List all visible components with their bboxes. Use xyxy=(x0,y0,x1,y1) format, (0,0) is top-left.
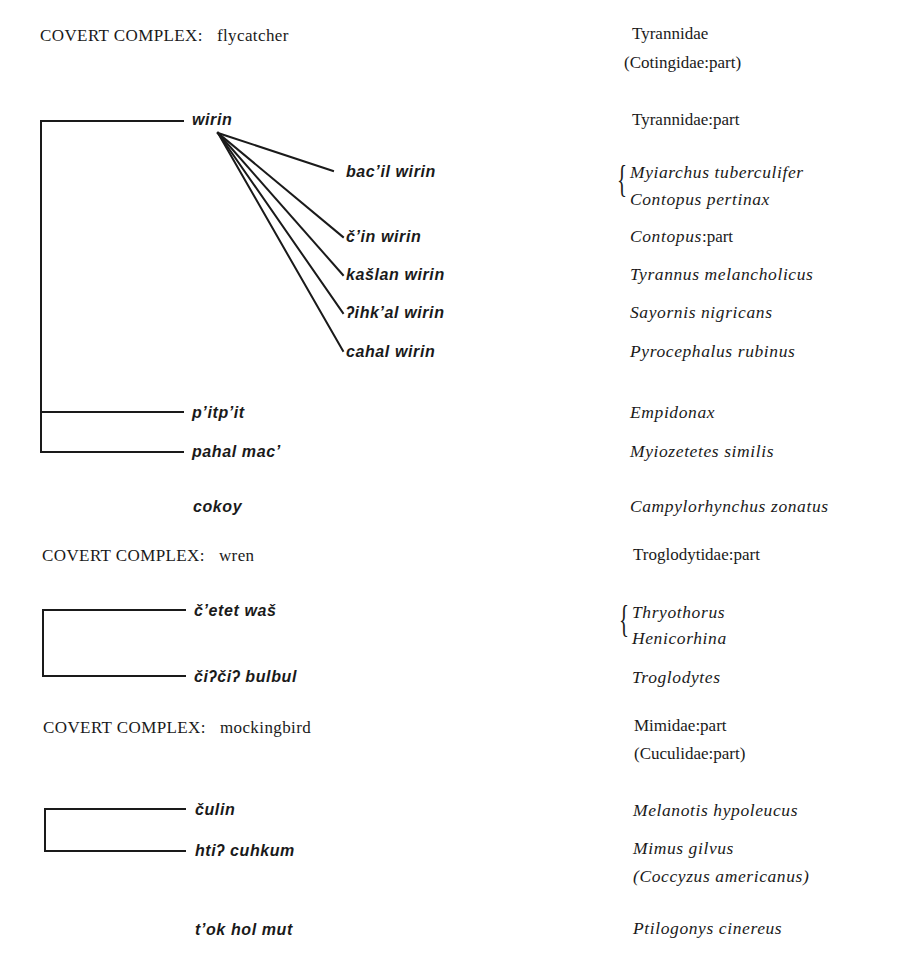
taxon-sayornis: Sayornis nigricans xyxy=(630,304,773,322)
taxon-tyrannus: Tyrannus melancholicus xyxy=(630,266,813,284)
taxon-empidonax: Empidonax xyxy=(630,404,715,422)
taxon-contopus-pertinax: Contopus pertinax xyxy=(630,191,770,209)
complex-name: mockingbird xyxy=(220,718,311,737)
taxon-wirin: Tyrannidae:part xyxy=(632,111,739,128)
term-cin-wirin: č’in wirin xyxy=(346,229,421,245)
mockingbird-bracket xyxy=(45,809,185,851)
term-wirin: wirin xyxy=(192,112,232,128)
flycatcher-bracket xyxy=(41,121,183,452)
complex-name: wren xyxy=(219,546,255,565)
complex-header-wren: COVERT COMPLEX:wren xyxy=(42,547,254,564)
taxon-campylorhynchus: Campylorhynchus zonatus xyxy=(630,498,829,516)
complex-header-mockingbird: COVERT COMPLEX:mockingbird xyxy=(43,719,311,736)
complex-label: COVERT COMPLEX: xyxy=(40,26,203,45)
brace-icon: { xyxy=(619,600,629,638)
term-cokoy: cokoy xyxy=(193,499,242,515)
fan-ihkal xyxy=(218,133,343,313)
taxon-troglodytes: Troglodytes xyxy=(632,669,721,687)
fan-cahal xyxy=(218,133,343,351)
complex-label: COVERT COMPLEX: xyxy=(43,718,206,737)
taxon-melanotis: Melanotis hypoleucus xyxy=(633,802,798,820)
family-tyrannidae: Tyrannidae xyxy=(632,25,708,42)
taxon-myiozetetes: Myiozetetes similis xyxy=(630,443,774,461)
term-cici-bulbul: čiʔčiʔ bulbul xyxy=(194,669,297,685)
term-pitpit: p’itp’it xyxy=(192,405,245,421)
complex-header-flycatcher: COVERT COMPLEX:flycatcher xyxy=(40,27,289,44)
term-cetet-was: č’etet waš xyxy=(194,603,276,619)
family-troglodytidae: Troglodytidae:part xyxy=(633,546,760,563)
taxon-mimus: Mimus gilvus xyxy=(633,840,734,858)
term-cahal-wirin: cahal wirin xyxy=(346,344,435,360)
brace-icon: { xyxy=(617,160,627,198)
term-hti-cuhkum: htiʔ cuhkum xyxy=(195,843,295,859)
taxon-ptilogonys: Ptilogonys cinereus xyxy=(633,920,782,938)
term-pahal-mac: pahal mac’ xyxy=(192,444,281,460)
taxon-pyrocephalus: Pyrocephalus rubinus xyxy=(630,343,795,361)
term-ihkal-wirin: ʔihk’al wirin xyxy=(346,305,445,321)
term-bacil-wirin: bac’il wirin xyxy=(346,164,436,180)
taxon-henicorhina: Henicorhina xyxy=(632,630,727,648)
term-kaslan-wirin: kašlan wirin xyxy=(346,267,445,283)
taxon-thryothorus: Thryothorus xyxy=(632,604,725,622)
family-note-cotingidae: (Cotingidae:part) xyxy=(624,54,741,71)
taxon-note-coccyzus: (Coccyzus americanus) xyxy=(633,868,809,886)
family-mimidae: Mimidae:part xyxy=(634,717,727,734)
taxon-contopus-part: Contopus:part xyxy=(630,228,733,246)
term-tok-hol-mut: t’ok hol mut xyxy=(195,922,293,938)
taxon-myiarchus: Myiarchus tuberculifer xyxy=(630,164,804,182)
family-note-cuculidae: (Cuculidae:part) xyxy=(634,745,745,762)
term-culin: čulin xyxy=(195,802,235,818)
wren-bracket xyxy=(43,610,185,676)
complex-name: flycatcher xyxy=(217,26,289,45)
complex-label: COVERT COMPLEX: xyxy=(42,546,205,565)
